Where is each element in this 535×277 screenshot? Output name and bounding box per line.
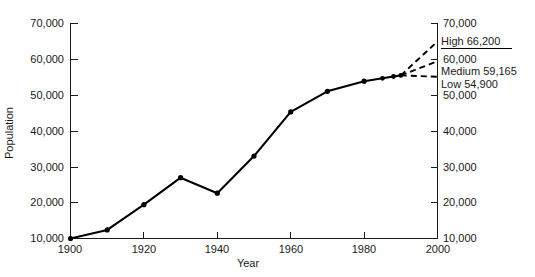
x-tick-label-1900: 1900	[58, 243, 82, 255]
y-axis-right: 70,000 60,000 50,000 40,000 30,000 20,00…	[431, 17, 477, 244]
y-tick-label-right-50000: 50,000	[443, 89, 477, 101]
y-tick-label-left-30000: 30,000	[30, 161, 64, 173]
historical-series	[68, 73, 403, 241]
data-point-1900	[68, 236, 73, 241]
data-point-1920	[141, 202, 146, 207]
y-tick-label-left-70000: 70,000	[30, 17, 64, 29]
annotation-low: Low 54,900	[441, 78, 498, 90]
projection-line-low	[401, 75, 437, 76]
y-tick-label-right-60000: 60,000	[443, 53, 477, 65]
x-tick-label-1980: 1980	[352, 243, 376, 255]
data-point-1988	[391, 74, 396, 79]
y-axis-title: Population	[3, 107, 15, 159]
x-axis-title: Year	[237, 257, 260, 269]
y-tick-label-left-60000: 60,000	[30, 53, 64, 65]
y-tick-label-right-70000: 70,000	[443, 17, 477, 29]
data-point-1980	[362, 79, 367, 84]
data-point-1940	[215, 191, 220, 196]
chart-figure: 70,000 60,000 50,000 40,000 30,000 20,00…	[0, 0, 535, 277]
data-point-1970	[325, 89, 330, 94]
population-projection-chart: 70,000 60,000 50,000 40,000 30,000 20,00…	[0, 0, 535, 277]
data-point-1985	[380, 76, 385, 81]
y-tick-label-right-30000: 30,000	[443, 161, 477, 173]
x-tick-label-1920: 1920	[132, 243, 156, 255]
historical-population-line	[71, 75, 401, 238]
y-tick-label-left-40000: 40,000	[30, 125, 64, 137]
data-point-1910	[105, 227, 110, 232]
y-axis-left: 70,000 60,000 50,000 40,000 30,000 20,00…	[3, 17, 78, 244]
y-tick-label-left-20000: 20,000	[30, 196, 64, 208]
x-tick-label-1960: 1960	[279, 243, 303, 255]
data-point-1950	[251, 154, 256, 159]
data-point-1930	[178, 175, 183, 180]
projection-line-medium	[401, 61, 437, 75]
data-point-1960	[288, 109, 293, 114]
y-tick-label-right-20000: 20,000	[443, 196, 477, 208]
x-tick-label-2000: 2000	[426, 243, 450, 255]
x-tick-label-1940: 1940	[205, 243, 229, 255]
annotation-high: High 66,200	[441, 35, 500, 47]
y-tick-label-left-50000: 50,000	[30, 89, 64, 101]
projection-line-high	[401, 42, 437, 76]
y-tick-label-right-40000: 40,000	[443, 125, 477, 137]
x-axis: 1900 1920 1940 1960 1980 2000 Year	[58, 232, 450, 270]
annotation-medium: Medium 59,165	[441, 65, 517, 77]
